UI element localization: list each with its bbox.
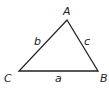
side-label-b: b [34,35,41,48]
vertex-label-b: B [100,72,108,85]
side-label-a: a [55,72,62,85]
vertex-label-c: C [4,72,12,85]
vertex-label-a: A [62,5,71,18]
triangle-diagram: A B C a b c [0,0,109,91]
side-label-c: c [84,35,90,48]
